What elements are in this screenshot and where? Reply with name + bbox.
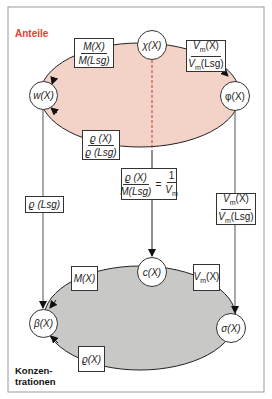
node-chi: χ(X) [137,30,167,60]
arg: (X) [206,271,219,282]
node-chi-label: χ(X) [143,40,162,51]
box-density-label: ϱ(X) [82,354,101,365]
box-density-ratio-den: ϱ (Lsg) [85,147,116,158]
box-molar-mass-label: M(X) [74,273,96,284]
node-sigma-label: σ(X) [221,323,240,334]
node-beta: β(X) [29,309,58,338]
equals-sign: = [155,179,161,190]
sym: V [165,184,172,195]
box-solution-density: ϱ (Lsg) [25,196,64,213]
box-mass-ratio-den: M(Lsg) [78,55,109,66]
box-center-formula: ϱ (X) M(Lsg) = 1 Vm [121,168,177,200]
node-phi: φ(X) [220,81,250,111]
sym: V [223,193,230,204]
node-beta-label: β(X) [34,318,53,329]
node-c-label: c(X) [143,267,161,278]
title-konzentrationen: Konzen- trationen [15,365,56,387]
box-mass-ratio: M(X) M(Lsg) [74,38,114,68]
node-c: c(X) [137,257,167,287]
box-density-ratio: ϱ (X) ϱ (Lsg) [82,130,120,160]
box-mass-ratio-num: M(X) [83,41,105,52]
box-molar-volume-ratio-top: Vm(X) Vm(Lsg) [186,40,226,72]
box-center-rhs-num: 1 [169,170,175,181]
arg: (X) [206,40,219,51]
node-w: w(X) [29,81,58,110]
sym: V [188,58,195,69]
title-konzentrationen-line1: Konzen- [15,365,56,376]
node-w-label: w(X) [33,90,54,101]
box-density-ratio-num: ϱ (X) [90,133,112,144]
box-center-num: ϱ (X) [125,172,147,183]
box-density: ϱ(X) [78,346,105,372]
arg: (Lsg) [231,211,254,222]
box-molar-mass: M(X) [71,266,98,291]
box-solution-density-label: ϱ (Lsg) [29,199,60,210]
node-sigma: σ(X) [216,313,246,343]
arg: (X) [236,193,249,204]
sym: V [218,211,225,222]
sym: V [193,40,200,51]
box-molar-volume-ratio-right: Vm(X) Vm(Lsg) [216,193,256,225]
node-phi-label: φ(X) [225,91,245,102]
title-anteile: Anteile [15,28,48,39]
sub: m [172,190,178,197]
box-molar-volume: Vm(X) [193,264,220,291]
arg: (Lsg) [201,58,224,69]
title-konzentrationen-line2: trationen [15,376,56,387]
box-center-den: M(Lsg) [120,186,151,197]
